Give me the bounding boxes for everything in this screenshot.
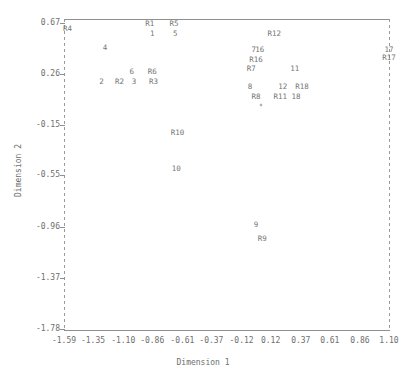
data-point-label: R9 (258, 235, 267, 243)
data-point-label: R10 (171, 129, 185, 137)
data-point-label: 1 (150, 30, 155, 38)
data-point-label: 8 (248, 83, 253, 91)
data-point-label: R3 (149, 78, 158, 86)
y-tick-label: -1.37 (18, 274, 60, 282)
data-point-label: R17 (382, 54, 396, 62)
data-point-label: 16 (255, 46, 264, 54)
x-axis-title: Dimension 1 (0, 358, 406, 367)
x-tick-label: 1.10 (369, 337, 406, 345)
data-point-label: R2 (115, 78, 124, 86)
plot-frame-top (64, 19, 390, 20)
y-tick-mark (60, 278, 65, 279)
data-point-label: R1 (145, 20, 154, 28)
data-point-label: 2 (99, 78, 104, 86)
y-tick-mark (60, 125, 65, 126)
data-point-label: R5 (169, 20, 178, 28)
y-tick-label: -0.15 (18, 121, 60, 129)
data-point-label: 12 (278, 83, 287, 91)
y-tick-label: 0.67 (18, 19, 60, 27)
y-tick-label: 0.26 (18, 70, 60, 78)
data-point-label: 3 (132, 78, 137, 86)
x-axis-line (64, 330, 390, 331)
y-tick-label: -0.55 (18, 171, 60, 179)
y-tick-mark (60, 74, 65, 75)
y-tick-label: -1.78 (18, 325, 60, 333)
y-tick-mark (60, 227, 65, 228)
data-point-label: R8 (252, 93, 261, 101)
data-point-label: 10 (172, 165, 181, 173)
data-point-label: 11 (290, 65, 299, 73)
data-point-label: R6 (148, 68, 157, 76)
data-point-label: 9 (254, 221, 259, 229)
scatter-plot: 0.670.26-0.15-0.55-0.96-1.37-1.78 -1.59-… (0, 0, 406, 381)
data-point-label: R7 (247, 65, 256, 73)
y-tick-mark (60, 175, 65, 176)
data-point-label: R11 (273, 93, 287, 101)
data-point-label: 6 (129, 68, 134, 76)
data-point-label: 18 (291, 93, 300, 101)
data-point-label: 4 (103, 44, 108, 52)
y-tick-mark (60, 329, 65, 330)
data-point-label: R4 (63, 25, 72, 33)
data-point-label: 5 (173, 30, 178, 38)
data-point-marker (259, 104, 262, 107)
y-axis-title: Dimension 2 (14, 121, 23, 221)
data-point-label: R18 (295, 83, 309, 91)
data-point-label: R16 (249, 56, 263, 64)
y-tick-label: -0.96 (18, 223, 60, 231)
data-point-label: R12 (267, 30, 281, 38)
plot-frame-right (389, 19, 390, 331)
